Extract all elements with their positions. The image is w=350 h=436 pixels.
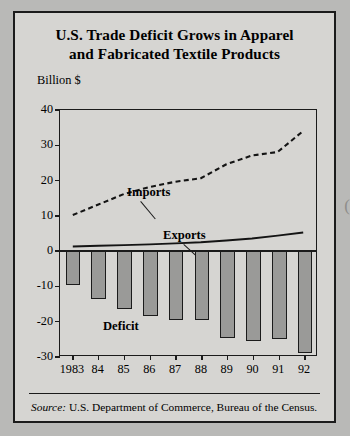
- y-axis-tick-label: 10: [41, 207, 53, 222]
- x-axis-labels: 1983848586878889909192: [59, 362, 317, 382]
- title-line-2: and Fabricated Textile Products: [15, 44, 334, 63]
- x-axis-tick-label: 88: [195, 362, 207, 377]
- page-edge-mark: (: [344, 196, 350, 216]
- deficit-bar: [298, 251, 312, 353]
- deficit-bar: [66, 251, 80, 285]
- source-note: Source: U.S. Department of Commerce, Bur…: [31, 401, 317, 413]
- title-line-1: U.S. Trade Deficit Grows in Apparel: [15, 25, 334, 44]
- y-axis-tick: [55, 321, 60, 322]
- y-axis-tick-label: -10: [37, 278, 53, 293]
- y-axis-tick-label: 0: [47, 243, 53, 258]
- x-axis-tick-label: 1983: [60, 362, 84, 377]
- x-axis-tick: [227, 355, 228, 360]
- y-axis-labels: 403020100-10-20-30: [15, 109, 53, 356]
- source-label: Source:: [31, 401, 66, 413]
- x-axis-tick-label: 85: [117, 362, 129, 377]
- deficit-annotation: Deficit: [103, 319, 139, 334]
- y-axis-tick-label: -30: [37, 349, 53, 364]
- x-axis-tick: [253, 355, 254, 360]
- page-title: U.S. Trade Deficit Grows in Apparel and …: [15, 25, 334, 63]
- deficit-bar: [220, 251, 234, 337]
- x-axis-tick-label: 87: [169, 362, 181, 377]
- deficit-bar: [117, 251, 131, 309]
- x-axis-tick: [175, 355, 176, 360]
- x-axis-tick: [201, 355, 202, 360]
- y-axis-tick: [55, 109, 60, 110]
- y-axis-tick: [55, 145, 60, 146]
- x-axis-tick: [279, 355, 280, 360]
- x-axis-tick: [304, 355, 305, 360]
- deficit-bar: [272, 251, 286, 339]
- deficit-bar: [246, 251, 260, 341]
- y-axis-tick: [55, 215, 60, 216]
- x-axis-tick-label: 89: [221, 362, 233, 377]
- imports-series-line: [73, 131, 303, 215]
- deficit-bar: [169, 251, 183, 320]
- y-axis-tick-label: 40: [41, 102, 53, 117]
- deficit-bar: [91, 251, 105, 299]
- y-axis-tick: [55, 180, 60, 181]
- y-axis-tick-label: -20: [37, 313, 53, 328]
- imports-annotation: Imports: [127, 185, 170, 200]
- figure-frame: U.S. Trade Deficit Grows in Apparel and …: [13, 11, 336, 423]
- source-text: U.S. Department of Commerce, Bureau of t…: [69, 401, 317, 413]
- x-axis-tick-label: 86: [143, 362, 155, 377]
- x-axis-tick-label: 84: [92, 362, 104, 377]
- x-axis-tick: [150, 355, 151, 360]
- source-divider: [29, 393, 320, 394]
- exports-annotation: Exports: [163, 228, 206, 243]
- y-axis-tick: [55, 286, 60, 287]
- y-axis-tick-label: 20: [41, 172, 53, 187]
- x-axis-tick: [98, 355, 99, 360]
- x-axis-tick-label: 92: [298, 362, 310, 377]
- x-axis-tick-label: 90: [246, 362, 258, 377]
- y-axis-tick: [55, 250, 60, 251]
- x-axis-tick-label: 91: [272, 362, 284, 377]
- y-axis-tick: [55, 356, 60, 357]
- x-axis-tick: [72, 355, 73, 360]
- deficit-bar: [195, 251, 209, 320]
- y-axis-unit-label: Billion $: [37, 73, 81, 88]
- y-axis-tick-label: 30: [41, 137, 53, 152]
- deficit-bar: [143, 251, 157, 316]
- x-axis-tick: [124, 355, 125, 360]
